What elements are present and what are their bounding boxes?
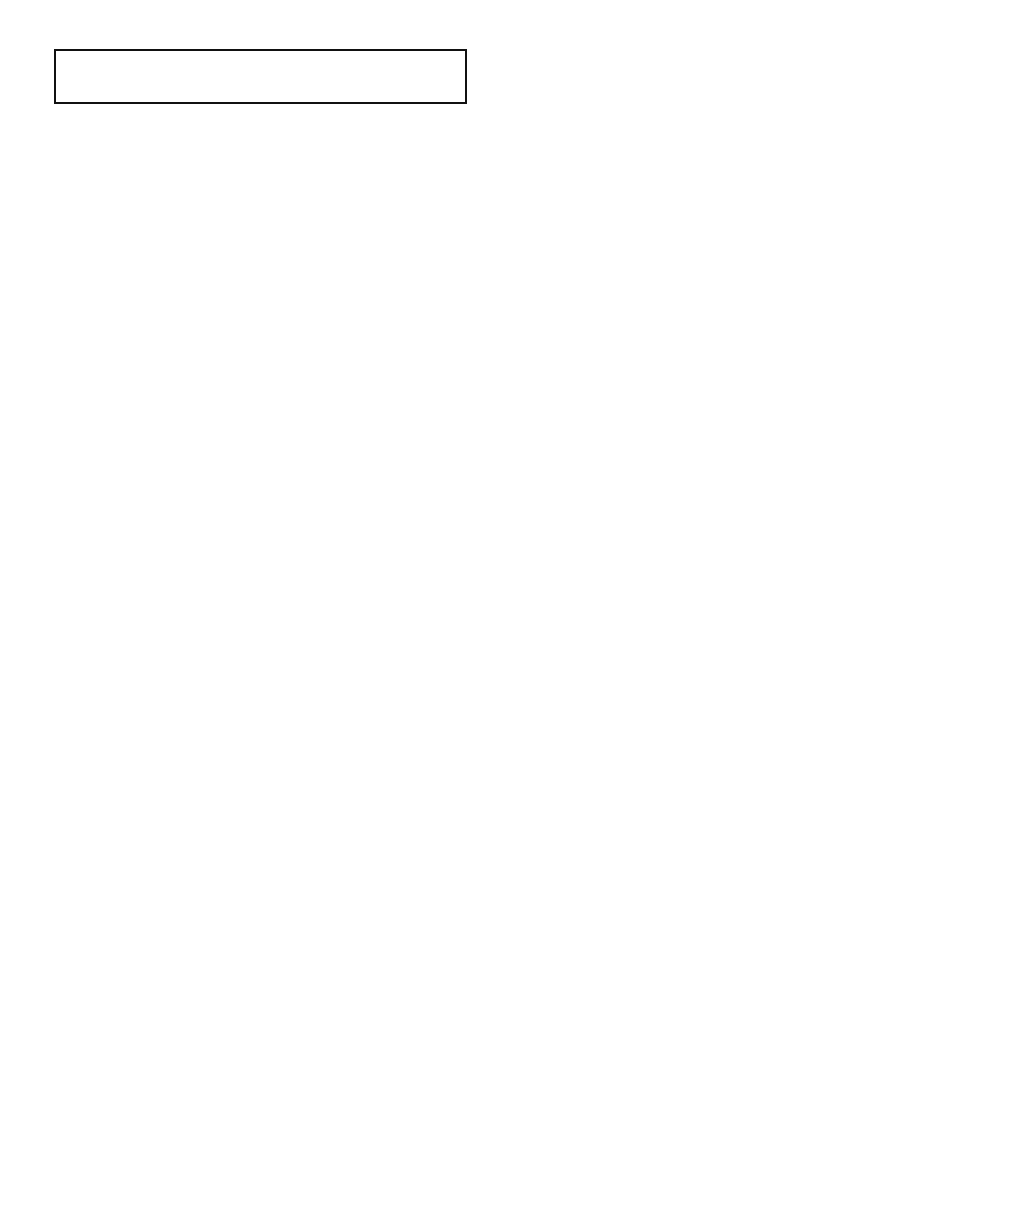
- step-projekt-management: [54, 49, 467, 104]
